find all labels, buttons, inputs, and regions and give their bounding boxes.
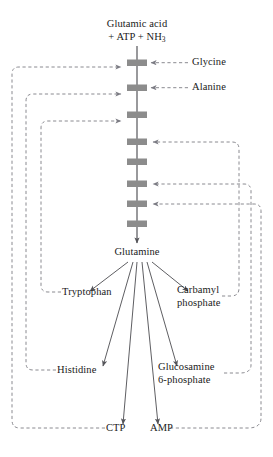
substrate-label-line2: + ATP + NH3 (108, 31, 165, 46)
inhibition-bar-3 (127, 112, 147, 119)
tryptophan-feedback-path (41, 121, 121, 292)
glutamine-feedback-diagram: Glutamic acid + ATP + NH3 Glycine Alanin… (0, 0, 273, 457)
substrate-line2-text: + ATP + NH (108, 31, 162, 42)
label-histidine: Histidine (57, 364, 96, 377)
label-ctp: CTP (106, 422, 126, 435)
glucosamine-line1: Glucosamine (158, 361, 215, 372)
histidine-feedback-path (26, 94, 121, 370)
inhibition-bar-7 (127, 201, 147, 208)
inhibition-bar-4 (127, 139, 147, 146)
substrate-label-line1: Glutamic acid (107, 18, 168, 31)
inhibition-bar-5 (127, 159, 147, 166)
inhibition-bar-2 (127, 85, 147, 92)
inhibition-bar-6 (127, 181, 147, 188)
carbamyl-line1: Carbamyl (177, 284, 219, 295)
label-glycine: Glycine (192, 56, 226, 69)
arrow-to-amp (142, 262, 158, 424)
arrow-to-glucosamine (147, 262, 177, 366)
short-inhibition-arrows (151, 63, 188, 88)
label-glutamine: Glutamine (114, 246, 159, 259)
label-carbamyl-phosphate: Carbamylphosphate (177, 284, 220, 309)
inhibition-bar-1 (127, 60, 147, 67)
label-amp: AMP (150, 422, 173, 435)
inhibition-bar-8 (127, 221, 147, 228)
label-glucosamine-6-phosphate: Glucosamine6-phosphate (158, 361, 215, 386)
glucosamine-feedback-path (153, 184, 251, 373)
arrow-to-ctp (123, 262, 137, 424)
glucosamine-line2: 6-phosphate (158, 374, 210, 385)
carbamyl-line2: phosphate (177, 297, 220, 308)
amp-feedback-path (153, 204, 261, 428)
ammonia-subscript: 3 (162, 35, 166, 44)
label-tryptophan: Tryptophan (62, 286, 112, 299)
diagram-canvas (0, 0, 273, 457)
label-alanine: Alanine (192, 81, 226, 94)
inhibition-bars (127, 60, 147, 228)
